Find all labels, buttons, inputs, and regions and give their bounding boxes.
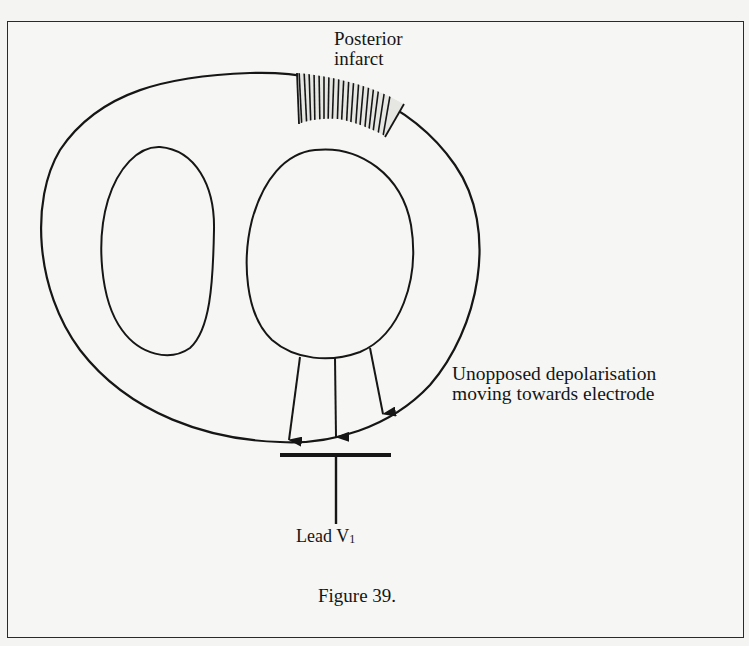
heart-cross-section-diagram: [0, 0, 749, 646]
posterior-infarct-label: Posterior infarct: [334, 29, 403, 69]
infarct-label-line2: infarct: [334, 49, 403, 69]
lead-v1-label: Lead V1: [296, 527, 355, 546]
left-ventricle-cavity: [247, 149, 413, 358]
infarct-label-line1: Posterior: [334, 29, 403, 49]
electrode-lead-v1: [280, 455, 391, 524]
lead-name: Lead V: [296, 526, 349, 546]
depolarisation-label: Unopposed depolarisation moving towards …: [452, 364, 656, 405]
lead-subscript: 1: [349, 532, 355, 546]
arrow-1: [289, 357, 300, 440]
depolarisation-label-line2: moving towards electrode: [452, 384, 656, 404]
arrow-2: [335, 358, 336, 437]
depolarisation-label-line1: Unopposed depolarisation: [452, 364, 656, 384]
arrow-3: [370, 348, 383, 414]
figure-caption: Figure 39.: [318, 586, 396, 606]
right-ventricle-cavity: [101, 147, 214, 355]
